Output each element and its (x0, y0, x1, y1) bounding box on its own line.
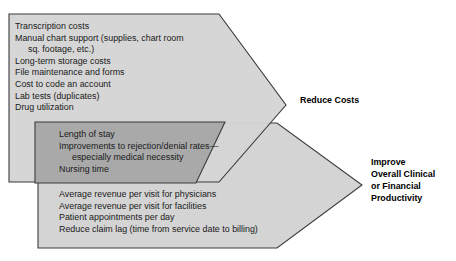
benefits-arrow-diagram: Transcription costs Manual chart support… (0, 0, 456, 261)
clinical-quality-arrow-shape (35, 122, 225, 183)
arrow-shapes-svg (0, 0, 456, 261)
